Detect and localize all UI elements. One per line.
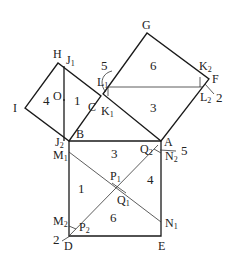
label-f: F (212, 72, 219, 86)
piece-top-6: 6 (150, 58, 157, 73)
label-q1: Q1 (117, 193, 130, 208)
piece-bottom-4: 4 (147, 172, 154, 187)
label-m1: M1 (53, 148, 68, 163)
label-n1: N1 (165, 216, 178, 231)
label-i: I (13, 101, 17, 115)
piece-top-3: 3 (150, 100, 157, 115)
label-b: B (76, 127, 84, 141)
label-m2: M2 (53, 214, 68, 229)
piece-top-2: 2 (216, 90, 223, 105)
label-g: G (142, 18, 151, 32)
label-e: E (158, 239, 165, 253)
label-c: C (88, 100, 96, 114)
label-k1: K1 (101, 104, 114, 119)
piece-left-4: 4 (43, 93, 50, 108)
label-o: O (53, 89, 62, 103)
piece-top-5: 5 (101, 58, 108, 73)
corner-mark-q2 (154, 149, 161, 153)
label-l2: L2 (200, 90, 211, 105)
label-k2: K2 (199, 59, 212, 74)
label-j1: J1 (66, 53, 75, 68)
label-a: A (164, 135, 173, 149)
label-p2: P2 (79, 220, 90, 235)
piece-bottom-2: 2 (53, 232, 60, 247)
label-h: H (53, 47, 62, 61)
center-point-o (63, 99, 65, 101)
piece-bottom-6: 6 (110, 210, 117, 225)
label-p1: P1 (110, 169, 121, 184)
label-d: D (64, 239, 73, 253)
label-q2: Q2 (140, 142, 153, 157)
label-l1: L1 (97, 75, 108, 90)
piece-left-1: 1 (74, 93, 81, 108)
corner-mark-p2 (69, 226, 76, 229)
piece-bottom-5: 5 (181, 143, 188, 158)
piece-bottom-1: 1 (78, 181, 85, 196)
piece-bottom-3: 3 (111, 146, 118, 161)
geometry-diagram: H J1 I O C L1 K1 G K2 F L2 B A J2 M1 Q2 … (0, 0, 239, 276)
